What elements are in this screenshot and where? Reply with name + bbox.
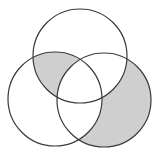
venn-diagram [0, 0, 162, 156]
